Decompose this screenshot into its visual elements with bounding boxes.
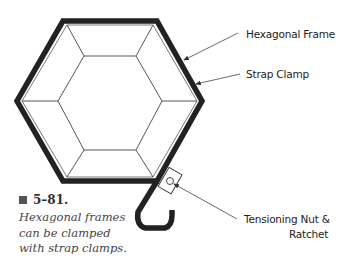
- label-ratchet: Ratchet: [289, 228, 328, 240]
- caption-line: Hexagonal frames: [19, 210, 127, 226]
- caption-line: with strap clamps.: [19, 241, 127, 257]
- frame-inner-hexagon: [58, 56, 162, 150]
- label-tensioning-nut: Tensioning Nut &: [244, 213, 330, 225]
- leader-hexagonal-frame: [184, 33, 238, 60]
- tensioning-nut: [167, 178, 174, 185]
- diagram-canvas: Hexagonal Frame Strap Clamp Tensioning N…: [0, 0, 343, 270]
- label-strap-clamp: Strap Clamp: [246, 68, 309, 80]
- caption-line: can be clamped: [19, 226, 127, 242]
- square-bullet-icon: [19, 196, 27, 204]
- label-hexagonal-frame: Hexagonal Frame: [246, 28, 335, 40]
- figure-number: 5–81.: [19, 193, 68, 207]
- leader-strap-clamp: [196, 74, 240, 84]
- figure-caption: Hexagonal frames can be clamped with str…: [19, 210, 127, 257]
- leader-tensioning-nut: [174, 184, 237, 219]
